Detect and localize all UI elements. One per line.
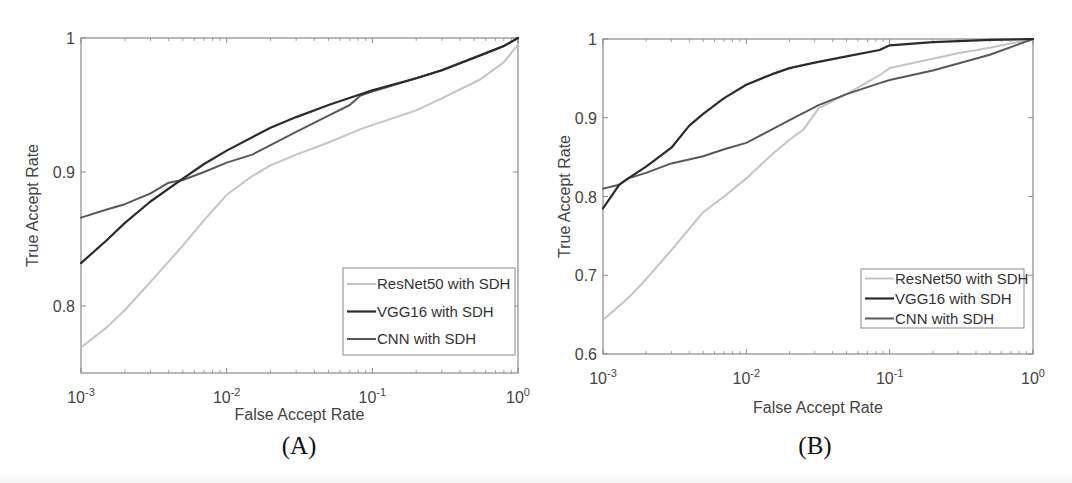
panel-caption-b: (B) <box>798 432 831 460</box>
legend-label: ResNet50 with SDH <box>895 270 1028 287</box>
roc-chart-b: 10-310-210-11000.60.70.80.91False Accept… <box>0 0 1072 483</box>
legend-label: VGG16 with SDH <box>895 290 1012 307</box>
y-tick-label: 0.7 <box>575 267 597 284</box>
y-tick-label: 0.9 <box>575 110 597 127</box>
figure: 10-310-210-11000.80.91False Accept RateT… <box>0 0 1072 483</box>
y-tick-label: 0.8 <box>575 189 597 206</box>
cut-off-caption-strip <box>0 474 1072 483</box>
y-axis-label: True Accept Rate <box>556 135 573 258</box>
legend: ResNet50 with SDHVGG16 with SDHCNN with … <box>861 269 1028 328</box>
y-tick-label: 0.6 <box>575 346 597 363</box>
x-tick-label: 100 <box>1021 367 1045 387</box>
y-tick-label: 1 <box>588 31 597 48</box>
x-tick-label: 10-2 <box>733 367 761 387</box>
x-tick-label: 10-3 <box>589 367 617 387</box>
x-axis-label: False Accept Rate <box>753 399 883 416</box>
x-tick-label: 10-1 <box>876 367 904 387</box>
legend-label: CNN with SDH <box>895 310 994 327</box>
panel-caption-a: (A) <box>282 432 317 460</box>
